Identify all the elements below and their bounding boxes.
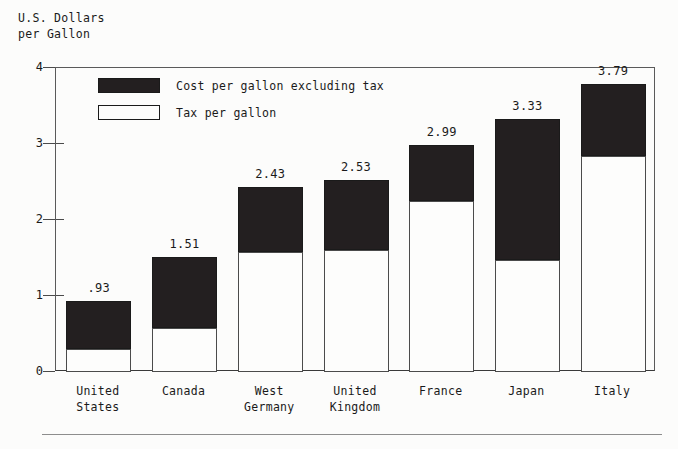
footer-divider	[42, 434, 662, 435]
legend-item-label: Tax per gallon	[176, 106, 276, 120]
bar-segment-tax[interactable]	[495, 260, 560, 372]
bar-segment-cost-excluding-tax[interactable]	[324, 180, 389, 250]
y-axis-tick-mark	[43, 67, 55, 68]
bar-stack[interactable]	[581, 84, 646, 372]
bar-stack[interactable]	[238, 187, 303, 372]
dark-square-icon	[98, 78, 160, 93]
light-square-icon	[98, 105, 160, 120]
bar-stack[interactable]	[324, 180, 389, 372]
bar-segment-tax[interactable]	[409, 201, 474, 372]
y-axis-tick-label: 4	[13, 61, 43, 73]
bar-segment-cost-excluding-tax[interactable]	[66, 301, 131, 349]
bar-segment-tax[interactable]	[581, 156, 646, 372]
y-axis-tick-label: 2	[13, 213, 43, 225]
bar-value-label: .93	[39, 282, 159, 294]
bar-segment-tax[interactable]	[238, 252, 303, 372]
bar-value-label: 3.79	[553, 65, 673, 77]
bar-segment-cost-excluding-tax[interactable]	[409, 145, 474, 201]
bar-segment-tax[interactable]	[152, 328, 217, 372]
y-axis-tick-mark	[43, 219, 55, 220]
bar-stack[interactable]	[66, 301, 131, 372]
y-axis-tick-mark	[43, 371, 55, 372]
y-axis-tick-mark	[43, 143, 55, 144]
bar-segment-tax[interactable]	[66, 349, 131, 372]
bar-segment-cost-excluding-tax[interactable]	[238, 187, 303, 252]
y-axis-tick-label: 3	[13, 137, 43, 149]
bar-stack[interactable]	[409, 145, 474, 372]
bar-value-label: 2.99	[382, 126, 502, 138]
bar-value-label: 2.53	[296, 161, 416, 173]
legend-item-label: Cost per gallon excluding tax	[176, 79, 384, 93]
bar-segment-tax[interactable]	[324, 250, 389, 372]
bar-value-label: 3.33	[467, 100, 587, 112]
bar-stack[interactable]	[152, 257, 217, 372]
bar-segment-cost-excluding-tax[interactable]	[495, 119, 560, 260]
chart-page: U.S. Dollars per Gallon 01234 .931.512.4…	[0, 0, 678, 449]
y-axis-title: U.S. Dollars per Gallon	[18, 10, 105, 42]
y-axis-title-line2: per Gallon	[18, 27, 90, 41]
bar-segment-cost-excluding-tax[interactable]	[581, 84, 646, 156]
y-axis-title-line1: U.S. Dollars	[18, 11, 105, 25]
bar-stack[interactable]	[495, 119, 560, 372]
y-axis-tick-label: 0	[13, 365, 43, 377]
bar-segment-cost-excluding-tax[interactable]	[152, 257, 217, 328]
y-axis-tick-mark	[43, 295, 55, 296]
x-axis-category-label: Italy	[547, 383, 677, 399]
bar-value-label: 1.51	[125, 238, 245, 250]
